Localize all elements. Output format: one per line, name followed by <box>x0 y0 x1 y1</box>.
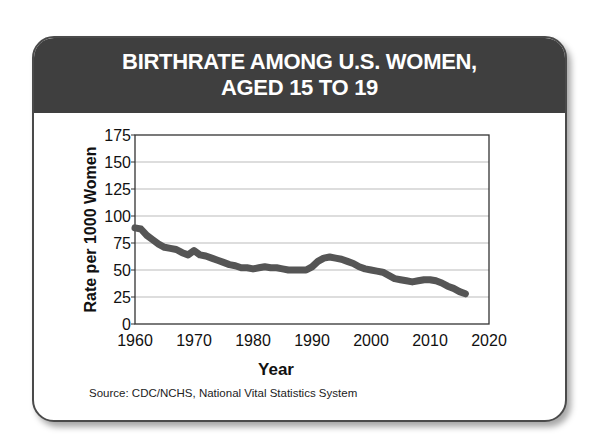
x-axis-ticks: 1960197019801990200020102020 <box>117 332 507 349</box>
y-tick-label: 100 <box>104 208 131 225</box>
source-note: Source: CDC/NCHS, National Vital Statist… <box>89 387 357 399</box>
line-chart: 0255075100125150175 19601970198019902000… <box>34 38 567 422</box>
y-tick-label: 150 <box>104 154 131 171</box>
x-tick-label: 1970 <box>176 332 212 349</box>
y-axis-ticks: 0255075100125150175 <box>104 127 135 333</box>
y-tick-label: 125 <box>104 181 131 198</box>
data-line <box>135 228 465 294</box>
y-tick-label: 0 <box>122 316 131 333</box>
y-tick-label: 50 <box>113 262 131 279</box>
x-tick-label: 2020 <box>471 332 507 349</box>
x-tick-label: 1960 <box>117 332 153 349</box>
x-axis-label: Year <box>258 360 294 379</box>
y-tick-label: 75 <box>113 235 131 252</box>
x-tick-label: 2000 <box>353 332 389 349</box>
x-tick-label: 2010 <box>412 332 448 349</box>
chart-card: BIRTHRATE AMONG U.S. WOMEN, AGED 15 TO 1… <box>32 36 567 422</box>
y-tick-label: 175 <box>104 127 131 144</box>
y-tick-label: 25 <box>113 289 131 306</box>
x-tick-label: 1980 <box>235 332 271 349</box>
plot-area <box>135 135 489 324</box>
gridlines <box>135 162 489 297</box>
y-axis-label: Rate per 1000 Women <box>82 147 99 313</box>
x-tick-label: 1990 <box>294 332 330 349</box>
